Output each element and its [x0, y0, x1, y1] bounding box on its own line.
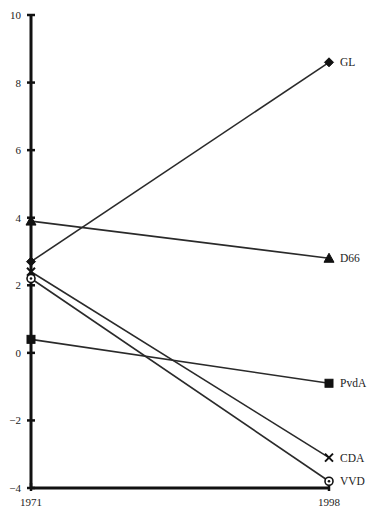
gl-diamond-marker-icon	[325, 58, 334, 67]
y-tick-label: 2	[16, 279, 22, 291]
series-line-gl	[31, 62, 329, 261]
series-line-d66	[31, 221, 329, 258]
series-lines	[31, 62, 329, 481]
vvd-circle-marker-icon-dot	[30, 277, 33, 280]
series-label-cda: CDA	[340, 452, 365, 464]
x-tick-label: 1998	[318, 496, 341, 508]
pvda-square-marker-icon	[325, 379, 333, 387]
series-label-pvda: PvdA	[340, 377, 367, 389]
axes	[31, 15, 329, 488]
series-labels: GLD66PvdACDAVVD	[340, 56, 367, 487]
series-markers	[26, 58, 334, 485]
gl-diamond-marker-icon	[27, 257, 36, 266]
series-line-pvda	[31, 339, 329, 383]
series-label-vvd: VVD	[340, 475, 365, 487]
series-label-d66: D66	[340, 252, 360, 264]
y-tick-label: 10	[10, 9, 22, 21]
vvd-circle-marker-icon-dot	[328, 480, 331, 483]
y-tick-label: 8	[16, 77, 22, 89]
y-tick-label: 0	[16, 347, 22, 359]
y-tick-label: −4	[9, 482, 21, 494]
series-label-gl: GL	[340, 56, 355, 68]
y-tick-label: 4	[16, 212, 22, 224]
y-tick-label: −2	[9, 414, 21, 426]
y-tick-label: 6	[16, 144, 22, 156]
line-chart: 1086420−2−4 19711998 GLD66PvdACDAVVD	[0, 0, 372, 517]
cda-x-marker-icon	[325, 454, 333, 462]
pvda-square-marker-icon	[27, 335, 35, 343]
x-tick-label: 1971	[20, 496, 42, 508]
series-line-vvd	[31, 279, 329, 482]
series-line-cda	[31, 272, 329, 458]
